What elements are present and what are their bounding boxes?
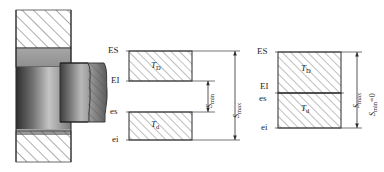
label-ES-middle: ES — [108, 45, 119, 55]
label-hole-tolerance-TD-middle: TD — [151, 60, 161, 70]
label-EI-right: EI — [260, 81, 269, 91]
s-max-subscript: max — [235, 103, 242, 114]
section-view-panel — [16, 10, 110, 162]
s-min-symbol-right: S — [368, 112, 377, 116]
shaft-tolerance-zone — [129, 112, 192, 140]
label-shaft-tolerance-Td-right: Td — [301, 103, 309, 113]
label-s-min-middle: Smin — [205, 94, 214, 108]
label-ei-middle: ei — [112, 134, 119, 144]
label-shaft-tolerance-Td-middle: Td — [151, 119, 159, 129]
label-ES-right: ES — [257, 46, 268, 56]
label-EI-middle: EI — [111, 75, 120, 85]
upper-housing-hatch — [16, 10, 71, 48]
label-hole-tolerance-TD-right: TD — [301, 63, 311, 73]
s-max-symbol-right: S — [352, 104, 361, 108]
Td-subscript: d — [156, 123, 159, 130]
shaft-tolerance-zone-right — [278, 93, 341, 128]
dimension-s-max-right — [355, 52, 359, 128]
zero-clearance-fit-panel — [275, 52, 362, 128]
shaft-body — [60, 63, 110, 122]
label-ei-right: ei — [261, 122, 268, 132]
label-es-right: es — [259, 93, 267, 103]
s-min-subscript: min — [208, 94, 215, 104]
label-es-middle: es — [110, 106, 118, 116]
dimension-s-max — [233, 51, 237, 140]
clearance-fit-panel — [126, 51, 240, 140]
TD-subscript-right: D — [306, 67, 311, 74]
lower-housing-hatch — [16, 131, 71, 162]
label-s-min-zero-right: Smin=0 — [368, 93, 377, 116]
s-max-symbol: S — [232, 114, 241, 118]
tolerance-fit-figure — [0, 0, 384, 172]
label-s-max-right: Smax — [352, 93, 361, 108]
s-min-symbol: S — [205, 104, 214, 108]
s-min-subscript-right: min — [371, 102, 378, 112]
s-max-subscript-right: max — [355, 93, 362, 104]
s-min-zero-value: =0 — [368, 93, 377, 102]
TD-subscript: D — [156, 64, 161, 71]
label-s-max-middle: Smax — [232, 103, 241, 118]
Td-subscript-right: d — [306, 107, 309, 114]
